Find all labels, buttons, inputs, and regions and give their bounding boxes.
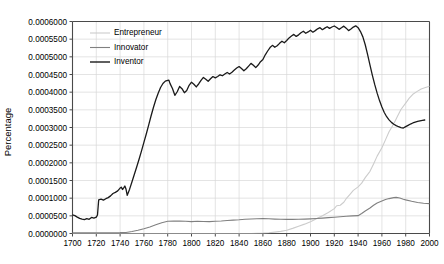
gridlines-group	[73, 22, 430, 234]
y-tick-label: 0.0003000	[28, 124, 67, 133]
series-line-inventor	[73, 26, 425, 220]
x-tick-label: 1880	[278, 239, 297, 248]
x-tick-label: 1900	[301, 239, 320, 248]
series-line-entrepreneur	[73, 86, 430, 233]
x-tick-label: 1720	[87, 239, 106, 248]
y-tick-label: 0.0003500	[28, 106, 67, 115]
chart-figure: Percentage 0.00000000.00005000.00010000.…	[0, 0, 444, 264]
y-tick-labels-group: 0.00000000.00005000.00010000.00015000.00…	[28, 18, 67, 239]
y-tick-label: 0.0002500	[28, 141, 67, 150]
y-tick-label: 0.0001000	[28, 194, 67, 203]
x-tick-labels-group: 1700172017401760178018001820184018601880…	[63, 239, 439, 248]
chart-plot-area: 0.00000000.00005000.00010000.00015000.00…	[0, 0, 444, 264]
y-tick-label: 0.0000000	[28, 230, 67, 239]
y-tick-label: 0.0006000	[28, 18, 67, 27]
x-tick-label: 1800	[182, 239, 201, 248]
legend-label-inventor: Inventor	[114, 57, 144, 66]
x-tick-label: 2000	[420, 239, 439, 248]
y-tick-label: 0.0002000	[28, 159, 67, 168]
x-tick-label: 1840	[230, 239, 249, 248]
x-tick-label: 1940	[349, 239, 368, 248]
x-tick-label: 1960	[373, 239, 392, 248]
legend-label-innovator: Innovator	[114, 43, 148, 52]
x-tick-label: 1700	[63, 239, 82, 248]
y-tick-label: 0.0001500	[28, 177, 67, 186]
y-tick-label: 0.0004000	[28, 88, 67, 97]
x-tick-label: 1860	[254, 239, 273, 248]
legend-label-entrepreneur: Entrepreneur	[114, 28, 162, 37]
x-tick-label: 1740	[111, 239, 130, 248]
y-tick-label: 0.0000500	[28, 212, 67, 221]
x-tick-label: 1760	[135, 239, 154, 248]
x-tick-label: 1920	[325, 239, 344, 248]
chart-legend: EntrepreneurInnovatorInventor	[90, 28, 162, 66]
x-tick-label: 1820	[206, 239, 225, 248]
y-tick-label: 0.0004500	[28, 71, 67, 80]
y-tick-label: 0.0005500	[28, 35, 67, 44]
x-tick-label: 1780	[159, 239, 178, 248]
y-tick-label: 0.0005000	[28, 53, 67, 62]
series-line-innovator	[73, 197, 430, 232]
x-tick-label: 1980	[397, 239, 416, 248]
